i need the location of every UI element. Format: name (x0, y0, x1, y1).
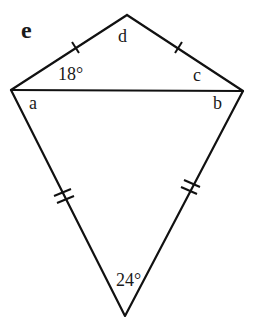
label-b: b (213, 93, 222, 113)
angle-24: 24° (116, 270, 141, 290)
label-c: c (193, 65, 201, 85)
kite-diagram: e d 18° c a b 24° (0, 0, 255, 317)
angle-18: 18° (58, 64, 83, 84)
horizontal-diagonal (11, 90, 243, 91)
figure-title: e (21, 17, 32, 43)
label-a: a (29, 93, 37, 113)
label-d: d (118, 26, 127, 46)
